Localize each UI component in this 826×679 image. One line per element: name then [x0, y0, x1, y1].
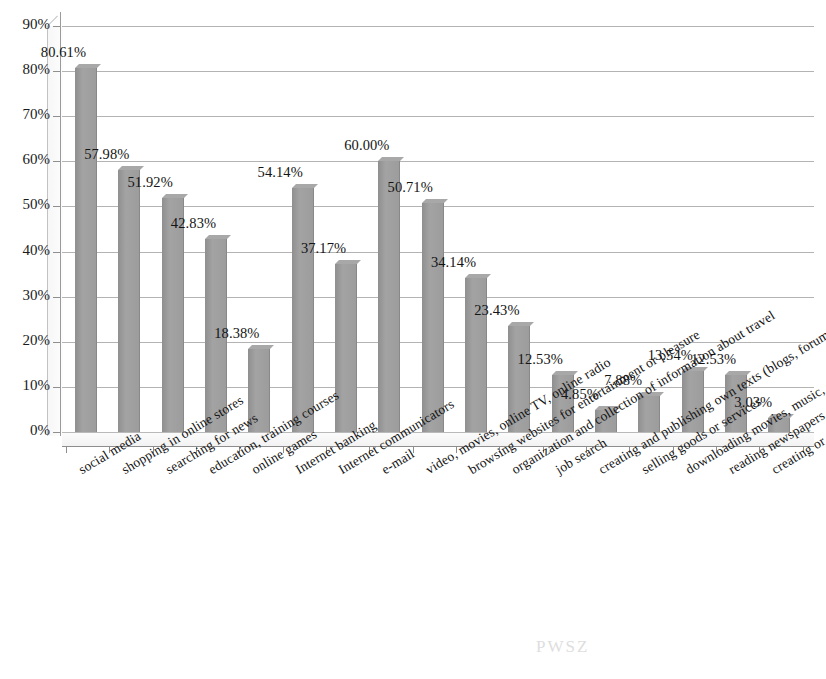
grid-line — [62, 71, 814, 72]
bar-value-label: 60.00% — [344, 137, 389, 154]
bar — [162, 198, 184, 432]
x-axis-category-label: Internet banking — [292, 464, 300, 478]
y-axis-tick-label: 60% — [0, 151, 50, 168]
y-axis-tick-mark — [53, 297, 60, 298]
x-axis-category-label: e-mail — [379, 464, 387, 478]
y-axis-tick-mark — [53, 26, 60, 27]
y-axis-tick-label: 0% — [0, 422, 50, 439]
bar-value-label: 18.38% — [214, 325, 259, 342]
x-axis-category-label: browsing websites for entertainment or p… — [466, 464, 474, 478]
y-axis-tick-mark — [53, 342, 60, 343]
y-axis-tick-mark — [53, 161, 60, 162]
bar-chart: 80.61%57.98%51.92%42.83%18.38%54.14%37.1… — [0, 0, 826, 679]
scan-artifact-text: PWSZ — [536, 637, 589, 657]
y-axis-tick-label: 10% — [0, 377, 50, 394]
y-axis-back-line — [47, 26, 48, 436]
x-axis-category-label: video, movies, online TV, online radio — [422, 464, 430, 478]
y-axis-tick-mark — [53, 206, 60, 207]
x-axis-category-label: job search — [552, 464, 560, 478]
y-axis-tick-label: 30% — [0, 287, 50, 304]
y-axis-tick-label: 80% — [0, 61, 50, 78]
bar-value-label: 51.92% — [128, 174, 173, 191]
x-axis-category-label: social media — [76, 464, 84, 478]
x-axis-category-label: searching for news — [162, 464, 170, 478]
y-axis-tick-label: 70% — [0, 106, 50, 123]
x-axis-category-label: online games — [249, 464, 257, 478]
bar — [378, 161, 400, 432]
y-axis-tick-label: 40% — [0, 242, 50, 259]
bar-value-label: 23.43% — [474, 302, 519, 319]
bar-value-label: 54.14% — [258, 164, 303, 181]
bar — [75, 68, 97, 432]
x-axis-category-label: selling goods or services — [639, 464, 647, 478]
y-axis-tick-mark — [53, 432, 60, 433]
y-axis-tick-mark — [53, 116, 60, 117]
x-axis-category-label: downloading movies, music, software — [683, 464, 691, 478]
x-axis-tick-mark — [66, 446, 67, 453]
bar-value-label: 42.83% — [171, 215, 216, 232]
x-axis-category-label: education, training courses — [206, 464, 214, 478]
x-axis-category-label: Internet communicators — [336, 464, 344, 478]
bar — [465, 278, 487, 432]
y-axis-tick-mark — [53, 387, 60, 388]
y-axis-tick-mark — [53, 252, 60, 253]
bar — [335, 264, 357, 432]
y-axis-tick-label: 90% — [0, 16, 50, 33]
grid-line — [62, 116, 814, 117]
x-axis-category-label: shopping in online stores — [119, 464, 127, 478]
x-axis-category-label: creating and publishing own texts (blogs… — [596, 464, 604, 478]
y-axis-tick-label: 20% — [0, 332, 50, 349]
y-axis-tick-mark — [53, 71, 60, 72]
y-axis-tick-label: 50% — [0, 196, 50, 213]
bar — [422, 203, 444, 432]
grid-line — [62, 161, 814, 162]
bar — [292, 188, 314, 432]
y-axis-line — [60, 12, 61, 436]
bar-value-label: 80.61% — [41, 44, 86, 61]
x-axis-category-label: creating or modifying websites — [769, 464, 777, 478]
bar-value-label: 37.17% — [301, 240, 346, 257]
grid-line — [62, 26, 814, 27]
bar-value-label: 34.14% — [431, 254, 476, 271]
bar — [118, 170, 140, 432]
x-axis-category-label: reading newspapers or books via the Inte… — [726, 464, 734, 478]
plot-area: 80.61%57.98%51.92%42.83%18.38%54.14%37.1… — [62, 12, 814, 436]
bar-value-label: 57.98% — [84, 146, 129, 163]
bar-value-label: 12.53% — [518, 351, 563, 368]
bar-value-label: 50.71% — [388, 179, 433, 196]
x-axis-category-label: organization and collection of informati… — [509, 464, 517, 478]
